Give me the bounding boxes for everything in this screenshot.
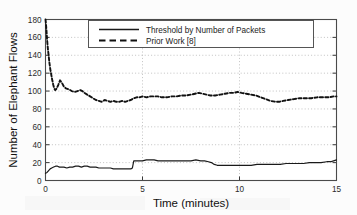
y-tick-label: 140: [28, 51, 42, 60]
y-tick-label: 0: [37, 177, 42, 186]
legend-label-threshold: Threshold by Number of Packets: [146, 26, 265, 35]
y-axis-title: Number of Elephant Flows: [7, 32, 19, 168]
x-tick-label: 15: [332, 185, 342, 194]
y-tick-label: 20: [32, 159, 42, 168]
y-tick-label: 60: [32, 123, 42, 132]
y-tick-label: 80: [32, 105, 42, 114]
chart-figure: 020406080100120140160180 051015 Time (mi…: [0, 0, 357, 215]
x-tick-label: 5: [140, 185, 145, 194]
y-tick-label: 160: [28, 33, 42, 42]
chart-svg: 020406080100120140160180 051015 Time (mi…: [0, 0, 357, 215]
x-tick-label: 10: [235, 185, 245, 194]
x-tick-label: 0: [43, 185, 48, 194]
y-tick-label: 120: [28, 69, 42, 78]
y-tick-label: 100: [28, 87, 42, 96]
x-axis-title: Time (minutes): [153, 197, 229, 209]
legend-label-prior-work: Prior Work [8]: [146, 37, 196, 46]
y-tick-label: 40: [32, 141, 42, 150]
chart-legend: Threshold by Number of Packets Prior Wor…: [89, 21, 314, 48]
y-tick-label: 180: [28, 16, 42, 25]
